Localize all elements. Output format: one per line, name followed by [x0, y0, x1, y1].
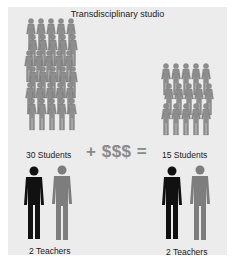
- teachers-right-icon: [158, 165, 218, 247]
- right-teachers-label: 2 Teachers: [166, 247, 207, 257]
- student-crowd-15-icon: [157, 63, 227, 145]
- right-students-label: 15 Students: [162, 150, 207, 160]
- plus-sign: +: [86, 142, 96, 161]
- left-students-label: 30 Students: [26, 150, 71, 160]
- money-sign: $$$: [102, 142, 132, 161]
- teachers-left-icon: [20, 165, 80, 247]
- equals-sign: =: [137, 142, 147, 161]
- equation: + $$$ =: [86, 142, 147, 162]
- left-teachers-label: 2 Teachers: [29, 246, 70, 256]
- student-crowd-30-icon: [20, 18, 100, 140]
